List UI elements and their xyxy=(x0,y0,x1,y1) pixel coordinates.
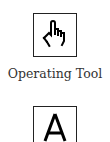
pointing-hand-icon xyxy=(34,14,76,56)
operating-tool-label: Operating Tool xyxy=(0,66,110,81)
labeling-tool-a-icon xyxy=(34,107,76,142)
labeling-tool-button[interactable] xyxy=(33,106,77,142)
operating-tool-button[interactable] xyxy=(33,13,77,57)
